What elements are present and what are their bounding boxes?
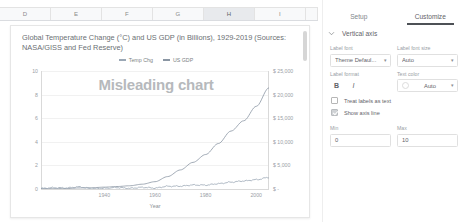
x-axis-tick: 1960 (149, 192, 161, 198)
column-header-label: E (74, 11, 78, 17)
column-header-i[interactable]: I (255, 8, 306, 20)
label-font-size-label: Label font size (397, 45, 458, 51)
column-header-partial[interactable] (306, 8, 318, 20)
x-axis-tick: 1980 (200, 192, 212, 198)
tab-label: Setup (350, 13, 367, 20)
column-header-label: H (227, 11, 232, 17)
x-axis-line (41, 189, 269, 190)
spreadsheet-column-headers: D E F G H I (0, 7, 318, 21)
show-axis-line-row[interactable]: Show axis line (323, 104, 466, 116)
chevron-down-icon (328, 30, 335, 37)
label-format-field: Label format B I (330, 71, 391, 93)
text-color-value: Auto (411, 83, 449, 89)
legend-label: Temp Chg (129, 57, 153, 63)
section-title: Vertical axis (342, 30, 377, 37)
text-color-select[interactable]: Auto ▾ (397, 79, 458, 92)
max-field: Max 10 (397, 125, 458, 147)
y-axis-left-tick: 6 (35, 115, 38, 121)
chart-plot-area: 10 8 6 4 2 0 $ 25,000 $ 20,000 $ 15,000 … (41, 71, 269, 189)
y-axis-right-tick: $ 5,000 (273, 162, 290, 168)
label-font-field: Label font Theme Defaul... ▾ (330, 45, 391, 67)
treat-labels-as-text-label: Treat labels as text (344, 98, 391, 104)
chevron-down-icon: ▾ (384, 58, 387, 63)
min-max-row: Min 0 Max 10 (323, 116, 466, 147)
treat-labels-as-text-row[interactable]: Treat labels as text (323, 92, 466, 104)
show-axis-line-checkbox[interactable] (331, 109, 338, 116)
column-header-d[interactable]: D (0, 8, 51, 20)
chevron-down-icon: ▾ (451, 58, 454, 63)
legend-swatch-icon (119, 59, 126, 61)
label-format-buttons: B I (330, 79, 391, 92)
series-line-us-gdp (41, 88, 269, 189)
text-color-label: Text color (397, 71, 458, 77)
format-color-row: Label format B I Text color Auto ▾ (323, 67, 466, 93)
y-axis-left-tick: 4 (35, 139, 38, 145)
tab-label: Customize (415, 13, 446, 20)
label-font-size-value: Auto (402, 57, 449, 63)
chart-series-canvas (41, 71, 269, 189)
chevron-down-icon: ▾ (451, 83, 454, 88)
label-font-select[interactable]: Theme Defaul... ▾ (330, 54, 391, 67)
chart-editor-panel: Setup Customize Vertical axis Label font… (322, 0, 466, 222)
series-line-temp-chg (41, 177, 269, 189)
column-header-f[interactable]: F (102, 8, 153, 20)
chart-card[interactable]: Global Temperature Change (°C) and US GD… (10, 25, 310, 218)
label-font-size-field: Label font size Auto ▾ (397, 45, 458, 67)
label-font-label: Label font (330, 45, 391, 51)
column-header-e[interactable]: E (51, 8, 102, 20)
chart-title: Global Temperature Change (°C) and US GD… (22, 33, 294, 53)
tab-customize[interactable]: Customize (395, 0, 466, 24)
y-axis-left-tick: 2 (35, 162, 38, 168)
chart-card-scrollbar[interactable] (303, 31, 307, 61)
y-axis-left-tick: 10 (32, 68, 38, 74)
italic-button[interactable]: I (349, 82, 358, 89)
column-header-label: D (23, 11, 28, 17)
treat-labels-as-text-checkbox[interactable] (331, 97, 338, 104)
min-field: Min 0 (330, 125, 391, 147)
bold-button[interactable]: B (332, 82, 341, 89)
y-axis-left-tick: 8 (35, 92, 38, 98)
column-header-label: G (176, 11, 181, 17)
column-header-h[interactable]: H (204, 8, 255, 20)
x-axis-tick: 2000 (250, 192, 262, 198)
chart-legend: Temp Chg US GDP (11, 57, 301, 63)
color-swatch-icon (402, 82, 409, 89)
legend-item-us-gdp[interactable]: US GDP (163, 57, 193, 63)
y-axis-right-tick: $ 25,000 (273, 68, 293, 74)
y-axis-right-tick: $ 15,000 (273, 115, 293, 121)
show-axis-line-label: Show axis line (344, 110, 380, 116)
max-value: 10 (402, 137, 408, 143)
label-format-label: Label format (330, 71, 391, 77)
column-header-label: I (279, 11, 281, 17)
column-header-label: F (125, 11, 129, 17)
min-input[interactable]: 0 (330, 134, 391, 147)
text-color-field: Text color Auto ▾ (397, 71, 458, 93)
section-vertical-axis[interactable]: Vertical axis (323, 24, 466, 41)
column-header-g[interactable]: G (153, 8, 204, 20)
x-axis-label: Year (150, 203, 161, 209)
y-axis-right-tick: $ 10,000 (273, 139, 293, 145)
legend-item-temp-chg[interactable]: Temp Chg (119, 57, 153, 63)
y-axis-left-tick: 0 (35, 186, 38, 192)
min-value: 0 (335, 137, 338, 143)
y-axis-right-tick: $ 20,000 (273, 92, 293, 98)
chart-editor-screen: D E F G H I Global Temperature Change (°… (0, 0, 466, 222)
label-font-size-select[interactable]: Auto ▾ (397, 54, 458, 67)
max-input[interactable]: 10 (397, 134, 458, 147)
max-label: Max (397, 125, 458, 131)
legend-swatch-icon (163, 59, 170, 61)
label-font-value: Theme Defaul... (335, 57, 382, 63)
y-axis-right-tick: $ - (273, 186, 279, 192)
legend-label: US GDP (173, 57, 193, 63)
panel-tabs: Setup Customize (323, 0, 466, 24)
font-fields-row: Label font Theme Defaul... ▾ Label font … (323, 41, 466, 67)
min-label: Min (330, 125, 391, 131)
tab-setup[interactable]: Setup (323, 0, 395, 24)
x-axis-tick: 1940 (99, 192, 111, 198)
